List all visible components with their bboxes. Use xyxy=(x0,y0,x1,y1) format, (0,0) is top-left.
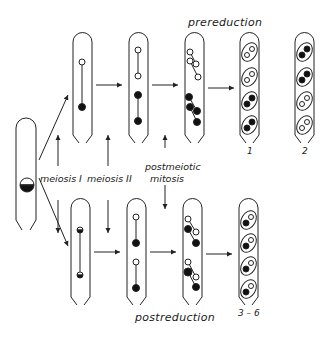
post-mitosis-ascus xyxy=(183,199,202,306)
meiosis-2-label: meiosis II xyxy=(87,174,132,184)
arrow-to-postreduction xyxy=(39,178,68,246)
post-meiosis-I-ascus xyxy=(71,199,90,306)
zygote-ascus xyxy=(16,118,36,230)
ascus-1-label: 1 xyxy=(247,147,253,156)
postreduction-title: postreduction xyxy=(135,312,215,323)
post-meiosis-II-ascus xyxy=(127,199,146,306)
arrow-to-prereduction xyxy=(39,95,68,160)
postmeiotic-label-line1: postmeiotic xyxy=(145,162,189,172)
pre-mitosis-ascus xyxy=(185,33,204,144)
ascus-1 xyxy=(238,33,260,144)
prereduction-title: prereduction xyxy=(188,17,262,28)
meiosis-1-label: meiosis I xyxy=(40,174,82,184)
ascus-2-label: 2 xyxy=(302,147,308,156)
ascus-3-6-label: 3 – 6 xyxy=(238,309,260,318)
ascus-2 xyxy=(293,33,315,144)
postmeiotic-label-line2: mitosis xyxy=(145,174,189,184)
ascus-3-6 xyxy=(237,199,259,306)
pre-meiosis-I-ascus xyxy=(73,33,92,144)
pre-meiosis-II-ascus xyxy=(129,33,148,144)
